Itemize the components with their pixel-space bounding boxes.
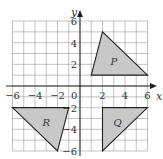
x-tick-label: 2 bbox=[99, 90, 105, 101]
y-tick-label: 4 bbox=[71, 38, 77, 49]
coordinate-grid-diagram: PQR x y 0 −6−4−2246642−2−4−6 bbox=[0, 0, 163, 159]
x-tick-label: −4 bbox=[28, 90, 43, 101]
y-tick-label: −2 bbox=[62, 103, 77, 114]
y-tick-label: −4 bbox=[62, 124, 77, 135]
triangle-label-q: Q bbox=[113, 117, 121, 128]
y-tick-label: −6 bbox=[62, 146, 77, 157]
origin-label: 0 bbox=[71, 90, 77, 101]
y-tick-label: 6 bbox=[71, 16, 77, 27]
x-axis-arrow-icon bbox=[150, 83, 157, 89]
x-axis-label: x bbox=[156, 90, 163, 103]
x-tick-label: −2 bbox=[50, 90, 65, 101]
x-tick-label: 4 bbox=[122, 90, 128, 101]
triangle-label-p: P bbox=[109, 56, 117, 67]
axes: x y 0 bbox=[6, 6, 163, 156]
y-axis-arrow-icon bbox=[77, 10, 83, 17]
y-tick-label: 2 bbox=[71, 59, 77, 70]
x-tick-label: −6 bbox=[5, 90, 20, 101]
triangle-label-r: R bbox=[41, 117, 50, 128]
x-tick-label: 6 bbox=[144, 90, 150, 101]
